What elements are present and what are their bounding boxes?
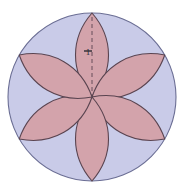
rosette-figure: 1 (0, 0, 182, 192)
rosette-diagram-svg: 1 (0, 0, 182, 192)
dimension-label: 1 (86, 47, 91, 57)
